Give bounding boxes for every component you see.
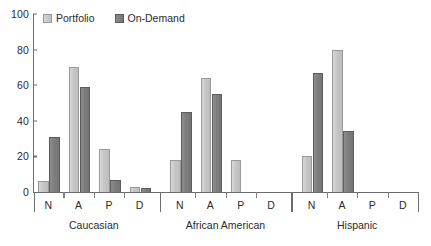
x-axis-group-label: African American: [186, 219, 265, 231]
x-axis-category-tick: [195, 192, 196, 198]
x-axis-group-label: Hispanic: [337, 219, 377, 231]
x-axis-category-label: N: [176, 199, 184, 211]
y-tick-label: 80: [17, 44, 29, 56]
bar-on-demand-caucasian-a: [80, 87, 91, 192]
bar-on-demand-caucasian-n: [49, 137, 60, 192]
bar-portfolio-african-american-a: [201, 78, 212, 192]
y-tick-label: 60: [17, 79, 29, 91]
x-axis-category-label: P: [237, 199, 244, 211]
bar-on-demand-hispanic-n: [313, 73, 324, 192]
x-axis-category-label: N: [44, 199, 52, 211]
x-axis-category-label: D: [267, 199, 275, 211]
y-tick-label: 100: [11, 8, 29, 20]
bar-portfolio-african-american-p: [231, 160, 242, 192]
x-axis-category-label: D: [136, 199, 144, 211]
plot-area: [33, 14, 419, 192]
x-axis-category-tick: [63, 192, 64, 198]
x-axis-category-label: D: [399, 199, 407, 211]
x-axis-category-label: P: [106, 199, 113, 211]
x-axis-category-tick: [124, 192, 125, 198]
x-axis-category-tick: [94, 192, 95, 198]
x-axis-category-tick: [256, 192, 257, 198]
x-axis-category-tick: [226, 192, 227, 198]
bar-chart: PortfolioOn-Demand 020406080100 NAPDCauc…: [0, 0, 431, 246]
x-axis-end-tick: [418, 192, 419, 212]
caption-strip: [0, 237, 431, 246]
bar-portfolio-african-american-n: [170, 160, 181, 192]
y-tick-label: 40: [17, 115, 29, 127]
bar-portfolio-hispanic-n: [302, 156, 313, 192]
bar-portfolio-caucasian-p: [99, 149, 110, 192]
x-axis-category-label: P: [369, 199, 376, 211]
x-axis-category-tick: [357, 192, 358, 198]
x-axis-group-separator: [291, 192, 292, 212]
x-axis-category-label: N: [308, 199, 316, 211]
x-axis-category-label: A: [207, 199, 214, 211]
bar-on-demand-caucasian-p: [110, 180, 121, 192]
bar-on-demand-african-american-n: [181, 112, 192, 192]
x-axis-group-separator: [34, 192, 35, 212]
x-axis-group-label: Caucasian: [69, 219, 119, 231]
y-tick-label: 20: [17, 150, 29, 162]
x-axis-group-separator: [160, 192, 161, 212]
x-axis-category-label: A: [75, 199, 82, 211]
x-axis-category-label: A: [338, 199, 345, 211]
y-tick-label: 0: [23, 186, 29, 198]
bar-on-demand-african-american-a: [212, 94, 223, 192]
bar-portfolio-caucasian-a: [69, 67, 80, 192]
x-axis-category-tick: [327, 192, 328, 198]
bar-on-demand-hispanic-a: [343, 131, 354, 192]
x-axis-category-tick: [388, 192, 389, 198]
bar-portfolio-hispanic-a: [332, 50, 343, 192]
bar-portfolio-caucasian-n: [38, 181, 49, 192]
